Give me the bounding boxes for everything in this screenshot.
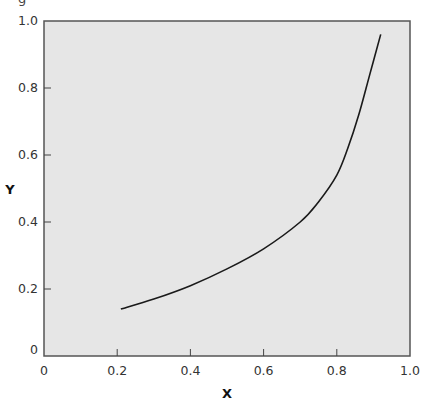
y-tick-label: 1.0 [18,13,38,28]
y-axis-title: Y [4,182,15,197]
x-tick-label: 0.4 [180,363,200,378]
line-chart: 00.20.40.60.81.000.20.40.60.81.0 X Y [0,0,429,410]
y-tick-label: 0.2 [18,281,38,296]
y-tick-label: 0.4 [18,214,38,229]
y-tick-label: 0.6 [18,147,38,162]
x-tick-label: 0.6 [254,363,274,378]
y-tick-label: 0.8 [18,80,38,95]
x-tick-label: 1.0 [400,363,420,378]
plot-area [44,21,410,356]
x-tick-label: 0 [40,363,48,378]
x-axis-title: X [222,386,232,401]
x-tick-label: 0.8 [327,363,347,378]
y-tick-label: 0 [30,342,38,357]
x-tick-label: 0.2 [107,363,127,378]
